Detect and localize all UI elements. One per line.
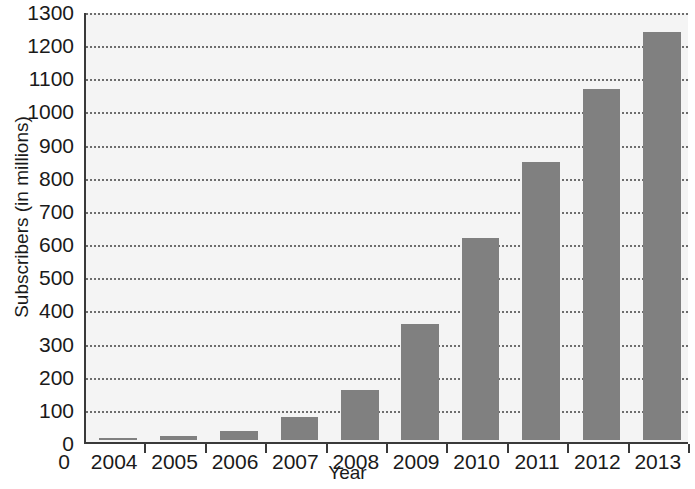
- bar-2008: [341, 390, 378, 440]
- y-tick-label: 200: [39, 367, 74, 388]
- bar-2012: [583, 89, 620, 440]
- bar-2011: [522, 162, 559, 440]
- bar-series: [88, 13, 688, 440]
- bar-2009: [401, 324, 438, 440]
- y-tick-label: 600: [39, 234, 74, 255]
- y-tick-label: 1200: [27, 35, 74, 56]
- bar-2005: [160, 436, 197, 440]
- y-tick-label: 1100: [29, 68, 74, 89]
- y-tick-label: 300: [39, 334, 74, 355]
- bar-2013: [643, 32, 680, 440]
- y-tick-label: 900: [39, 135, 74, 156]
- bar-2007: [281, 417, 318, 440]
- bar-2010: [462, 238, 499, 440]
- y-tick-label: 700: [39, 201, 74, 222]
- y-tick-label: 800: [39, 168, 74, 189]
- y-axis-tick-labels: 0100200300400500600700800900100011001200…: [0, 0, 84, 489]
- y-tick-label: 500: [39, 267, 74, 288]
- x-axis-title: Year: [0, 462, 695, 484]
- y-tick-label: 1300: [27, 2, 74, 23]
- y-tick-label: 1000: [27, 101, 74, 122]
- plot-area: [84, 13, 688, 444]
- y-tick-label: 100: [39, 400, 74, 421]
- bar-2004: [99, 438, 136, 440]
- bar-2006: [220, 431, 257, 440]
- y-tick-label: 400: [39, 300, 74, 321]
- bar-chart: Subscribers (in millions) 01002003004005…: [0, 0, 695, 489]
